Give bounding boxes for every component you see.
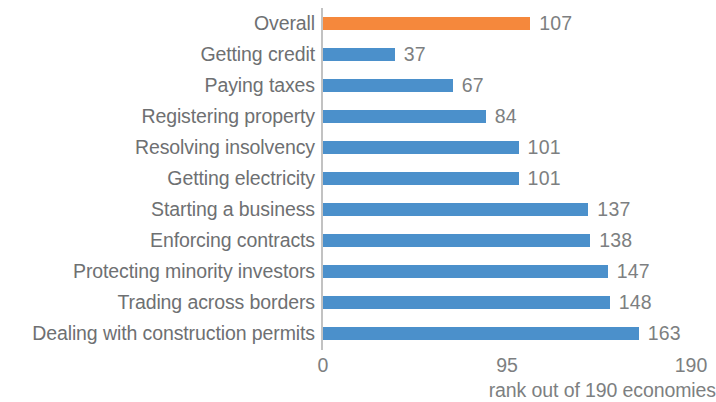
bar-value-label: 37 xyxy=(404,39,426,70)
category-label: Getting electricity xyxy=(167,163,315,194)
bar-value-label: 138 xyxy=(599,225,632,256)
bar-value-label: 101 xyxy=(528,163,561,194)
bar-value-label: 148 xyxy=(619,287,652,318)
chart-row: Getting electricity101 xyxy=(0,163,716,194)
y-axis-line xyxy=(321,8,323,350)
x-axis-tick-label: 0 xyxy=(318,352,329,378)
bar xyxy=(323,17,530,30)
bar xyxy=(323,296,610,309)
chart-row: Resolving insolvency101 xyxy=(0,132,716,163)
chart-row: Protecting minority investors147 xyxy=(0,256,716,287)
bar xyxy=(323,48,395,61)
bar xyxy=(323,203,588,216)
category-label: Enforcing contracts xyxy=(150,225,315,256)
bar-value-label: 84 xyxy=(495,101,517,132)
bar xyxy=(323,141,519,154)
x-axis-tick-labels: 095190 xyxy=(0,352,716,378)
bar-value-label: 137 xyxy=(597,194,630,225)
bar xyxy=(323,265,608,278)
bar-value-label: 147 xyxy=(617,256,650,287)
bar-value-label: 101 xyxy=(528,132,561,163)
x-axis-tick-label: 190 xyxy=(675,352,708,378)
category-label: Overall xyxy=(254,8,315,39)
x-axis-tick-label: 95 xyxy=(496,352,518,378)
chart-row: Registering property84 xyxy=(0,101,716,132)
chart-row: Overall107 xyxy=(0,8,716,39)
bar xyxy=(323,110,486,123)
category-label: Resolving insolvency xyxy=(135,132,315,163)
chart-row: Getting credit37 xyxy=(0,39,716,70)
chart-row: Dealing with construction permits163 xyxy=(0,318,716,349)
bar-value-label: 67 xyxy=(462,70,484,101)
category-label: Paying taxes xyxy=(205,70,315,101)
bar xyxy=(323,79,453,92)
chart-row: Paying taxes67 xyxy=(0,70,716,101)
x-axis-caption: rank out of 190 economies xyxy=(489,378,716,402)
chart-row: Enforcing contracts138 xyxy=(0,225,716,256)
category-label: Trading across borders xyxy=(117,287,315,318)
category-label: Protecting minority investors xyxy=(73,256,315,287)
bar-chart-figure: Overall107Getting credit37Paying taxes67… xyxy=(0,0,716,402)
category-label: Getting credit xyxy=(200,39,315,70)
category-label: Dealing with construction permits xyxy=(32,318,315,349)
category-label: Registering property xyxy=(141,101,315,132)
bar xyxy=(323,172,519,185)
bar-value-label: 107 xyxy=(539,8,572,39)
chart-row: Trading across borders148 xyxy=(0,287,716,318)
bar xyxy=(323,234,590,247)
bar-value-label: 163 xyxy=(648,318,681,349)
bar xyxy=(323,327,639,340)
category-label: Starting a business xyxy=(151,194,315,225)
plot-area: Overall107Getting credit37Paying taxes67… xyxy=(0,0,716,352)
chart-row: Starting a business137 xyxy=(0,194,716,225)
